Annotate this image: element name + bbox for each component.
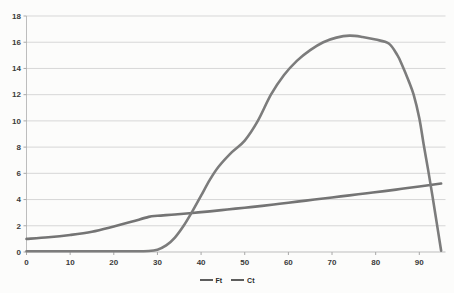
plot-area: 0246810121416180102030405060708090 <box>0 0 454 293</box>
svg-text:12: 12 <box>12 90 21 99</box>
svg-text:50: 50 <box>240 258 249 267</box>
svg-text:2: 2 <box>17 222 22 231</box>
legend-line-ct-icon <box>231 279 244 281</box>
svg-text:14: 14 <box>12 64 21 73</box>
svg-text:0: 0 <box>17 248 22 257</box>
svg-text:16: 16 <box>12 38 21 47</box>
svg-text:60: 60 <box>284 258 293 267</box>
legend-line-ft-icon <box>200 279 213 281</box>
legend-item-ft: Ft <box>200 277 223 284</box>
chart-legend: Ft Ct <box>0 274 454 286</box>
svg-text:4: 4 <box>17 195 22 204</box>
svg-text:6: 6 <box>17 169 22 178</box>
line-chart: 0246810121416180102030405060708090 Ft Ct <box>0 0 454 293</box>
svg-text:20: 20 <box>109 258 118 267</box>
svg-text:70: 70 <box>328 258 337 267</box>
legend-label-ct: Ct <box>247 277 254 284</box>
svg-text:0: 0 <box>24 258 29 267</box>
svg-text:40: 40 <box>197 258 206 267</box>
svg-text:18: 18 <box>12 12 21 21</box>
svg-text:10: 10 <box>12 117 21 126</box>
legend-label-ft: Ft <box>216 277 223 284</box>
svg-text:80: 80 <box>371 258 380 267</box>
svg-text:30: 30 <box>153 258 162 267</box>
svg-text:90: 90 <box>415 258 424 267</box>
svg-text:10: 10 <box>66 258 75 267</box>
legend-item-ct: Ct <box>231 277 254 284</box>
svg-text:8: 8 <box>17 143 22 152</box>
